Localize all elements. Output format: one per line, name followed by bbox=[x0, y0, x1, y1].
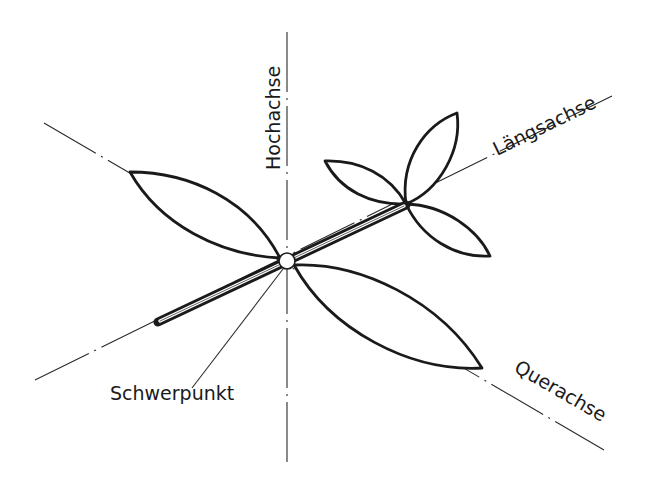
tail-blade-right bbox=[406, 204, 490, 256]
label-longitudinal-axis: Längsachse bbox=[489, 91, 599, 160]
main-rotor-blades bbox=[130, 172, 482, 368]
axes-diagram: Hochachse Längsachse Querachse Schwerpun… bbox=[0, 0, 669, 499]
label-transverse-axis: Querachse bbox=[511, 355, 611, 425]
label-center-of-gravity: Schwerpunkt bbox=[110, 382, 234, 404]
center-of-gravity-marker bbox=[279, 253, 295, 269]
tail-blade-up bbox=[405, 113, 458, 204]
tail-blade-left bbox=[325, 161, 406, 204]
labels: Hochachse Längsachse Querachse Schwerpun… bbox=[110, 66, 611, 426]
main-blade-left bbox=[130, 172, 280, 258]
label-vertical-axis: Hochachse bbox=[262, 66, 284, 170]
main-blade-right bbox=[294, 265, 482, 368]
